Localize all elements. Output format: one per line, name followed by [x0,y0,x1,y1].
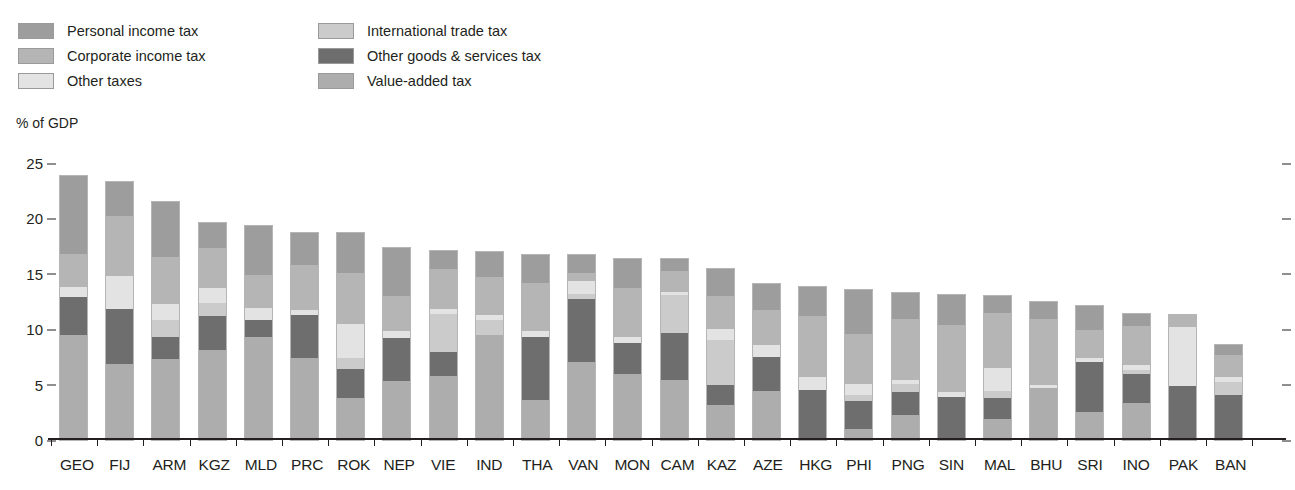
bar-phi[interactable] [845,290,872,440]
bar-segment-mal-corporate-income-tax [984,313,1011,368]
bar-bhu[interactable] [1030,302,1057,441]
bar-segment-cam-international-trade-tax [661,295,688,333]
bar-segment-vie-international-trade-tax [430,314,457,353]
bar-sin[interactable] [938,295,965,440]
bar-segment-nep-value-added-tax [383,381,410,440]
bar-mal[interactable] [984,296,1011,440]
bar-prc[interactable] [291,233,318,440]
bar-pak[interactable] [1169,315,1196,440]
x-axis-label-ind: IND [476,456,503,474]
bar-hkg[interactable] [799,287,826,440]
bar-segment-ind-value-added-tax [476,335,503,440]
bar-fij[interactable] [106,182,133,440]
bar-segment-aze-value-added-tax [753,391,780,440]
y-axis-tick-25: 25 [21,155,56,172]
bar-segment-fij-other-goods-services-tax [106,309,133,363]
bar-segment-aze-other-taxes [753,345,780,357]
x-axis-label-arm: ARM [152,456,179,474]
bar-mon[interactable] [614,259,641,440]
bar-mld[interactable] [245,226,272,440]
bar-segment-png-international-trade-tax [892,384,919,393]
bar-geo[interactable] [60,176,87,440]
x-axis-label-van: VAN [568,456,595,474]
x-axis-label-png: PNG [892,456,919,474]
bar-segment-bhu-corporate-income-tax [1030,319,1057,384]
bar-segment-mld-value-added-tax [245,337,272,440]
bar-segment-fij-value-added-tax [106,364,133,440]
bar-segment-cam-personal-income-tax [661,259,688,270]
bar-segment-ban-corporate-income-tax [1215,355,1242,377]
bar-aze[interactable] [753,284,780,440]
bar-segment-sri-personal-income-tax [1076,306,1103,330]
bar-segment-png-personal-income-tax [892,293,919,320]
bar-segment-mld-corporate-income-tax [245,275,272,308]
bar-segment-kaz-other-goods-services-tax [707,385,734,405]
bar-segment-kgz-other-taxes [199,288,226,302]
bar-segment-geo-other-goods-services-tax [60,297,87,335]
bar-segment-rok-corporate-income-tax [337,273,364,324]
bar-rok[interactable] [337,233,364,440]
bar-segment-van-other-taxes [568,281,595,294]
x-axis-label-sin: SIN [938,456,965,474]
bar-ind[interactable] [476,252,503,440]
bar-segment-mon-value-added-tax [614,374,641,440]
bar-segment-kgz-international-trade-tax [199,303,226,316]
bar-tha[interactable] [522,255,549,440]
bar-segment-hkg-other-goods-services-tax [799,390,826,440]
bar-segment-kaz-corporate-income-tax [707,296,734,329]
bar-segment-van-personal-income-tax [568,255,595,273]
bar-van[interactable] [568,255,595,440]
bar-png[interactable] [892,293,919,440]
bar-segment-kaz-other-taxes [707,329,734,340]
x-axis-labels: GEOFIJARMKGZMLDPRCROKNEPVIEINDTHAVANMONC… [56,440,1272,480]
bar-segment-tha-personal-income-tax [522,255,549,283]
x-axis-label-kaz: KAZ [707,456,734,474]
bar-segment-kaz-personal-income-tax [707,269,734,296]
bar-kgz[interactable] [199,223,226,440]
bar-segment-tha-other-goods-services-tax [522,337,549,400]
bar-segment-mal-value-added-tax [984,419,1011,440]
bar-nep[interactable] [383,248,410,440]
x-axis-label-nep: NEP [383,456,410,474]
x-axis-label-sri: SRI [1076,456,1103,474]
bar-arm[interactable] [152,202,179,440]
bar-ban[interactable] [1215,345,1242,440]
stacked-bar-chart: 0510152025 GEOFIJARMKGZMLDPRCROKNEPVIEIN… [0,0,1295,490]
bar-segment-aze-other-goods-services-tax [753,357,780,391]
bar-vie[interactable] [430,251,457,440]
bar-kaz[interactable] [707,269,734,440]
x-axis-label-geo: GEO [60,456,87,474]
bar-segment-prc-corporate-income-tax [291,265,318,310]
bar-segment-geo-corporate-income-tax [60,254,87,287]
bar-segment-sri-value-added-tax [1076,412,1103,440]
bar-segment-mld-other-taxes [245,308,272,320]
bar-segment-phi-corporate-income-tax [845,334,872,384]
bar-segment-phi-personal-income-tax [845,290,872,333]
bar-segment-bhu-personal-income-tax [1030,302,1057,320]
bar-sri[interactable] [1076,306,1103,440]
bar-segment-cam-value-added-tax [661,380,688,440]
x-axis-label-vie: VIE [430,456,457,474]
y-axis-tick-5: 5 [21,376,56,393]
bar-ino[interactable] [1123,314,1150,440]
x-axis-label-mal: MAL [984,456,1011,474]
bar-segment-kgz-value-added-tax [199,350,226,440]
x-axis-label-mld: MLD [245,456,272,474]
bar-segment-nep-other-taxes [383,331,410,338]
bar-segment-mal-other-goods-services-tax [984,398,1011,419]
bar-segment-phi-international-trade-tax [845,395,872,402]
x-axis-label-fij: FIJ [106,456,133,474]
bar-segment-rok-international-trade-tax [337,358,364,369]
bar-segment-vie-personal-income-tax [430,251,457,270]
bar-segment-geo-other-taxes [60,287,87,297]
x-axis-label-aze: AZE [753,456,780,474]
bar-segment-mld-other-goods-services-tax [245,320,272,337]
bar-cam[interactable] [661,259,688,440]
bar-segment-vie-other-goods-services-tax [430,352,457,375]
bar-segment-arm-corporate-income-tax [152,257,179,304]
bar-segment-mal-international-trade-tax [984,391,1011,398]
bar-segment-cam-corporate-income-tax [661,271,688,292]
bar-segment-sri-other-goods-services-tax [1076,362,1103,412]
bar-segment-arm-value-added-tax [152,359,179,440]
bar-segment-aze-corporate-income-tax [753,310,780,344]
